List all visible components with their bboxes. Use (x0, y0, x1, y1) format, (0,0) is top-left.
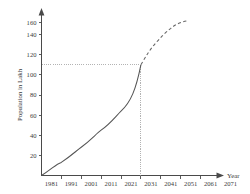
y-tick-label: 40 (30, 132, 37, 139)
y-tick-label: 120 (27, 51, 38, 58)
y-tick-label: 20 (30, 152, 37, 159)
chart-canvas: 20 40 60 80 100 120 140 160 1981 1991 20… (0, 0, 250, 194)
y-axis-tick-labels: 20 40 60 80 100 120 140 160 (27, 19, 38, 159)
x-tick-label: 1981 (45, 180, 58, 187)
observed-population-curve (42, 65, 141, 176)
y-tick-label: 100 (27, 71, 38, 78)
x-tick-label: 2041 (164, 180, 177, 187)
x-axis-arrow-icon (217, 173, 225, 179)
x-tick-label: 2011 (105, 180, 118, 187)
x-tick-label: 1991 (65, 180, 78, 187)
x-tick-label: 2021 (124, 180, 137, 187)
projected-population-curve (141, 21, 187, 65)
x-tick-label: 2001 (85, 180, 98, 187)
y-tick-label: 140 (27, 31, 38, 38)
x-tick-label: 2031 (144, 180, 157, 187)
x-axis-tick-labels: 1981 1991 2001 2011 2021 2031 2041 2051 … (45, 180, 237, 187)
y-tick-label: 60 (30, 112, 37, 119)
x-axis-title: Year (227, 172, 240, 179)
y-axis-arrow-icon (39, 8, 45, 16)
y-tick-label: 80 (30, 91, 37, 98)
population-growth-chart: 20 40 60 80 100 120 140 160 1981 1991 20… (0, 0, 250, 194)
x-tick-label: 2051 (184, 180, 197, 187)
x-tick-label: 2071 (224, 180, 237, 187)
y-axis-title: Population in Lakh (16, 68, 23, 121)
y-tick-label: 160 (27, 19, 38, 26)
x-tick-label: 2061 (204, 180, 217, 187)
